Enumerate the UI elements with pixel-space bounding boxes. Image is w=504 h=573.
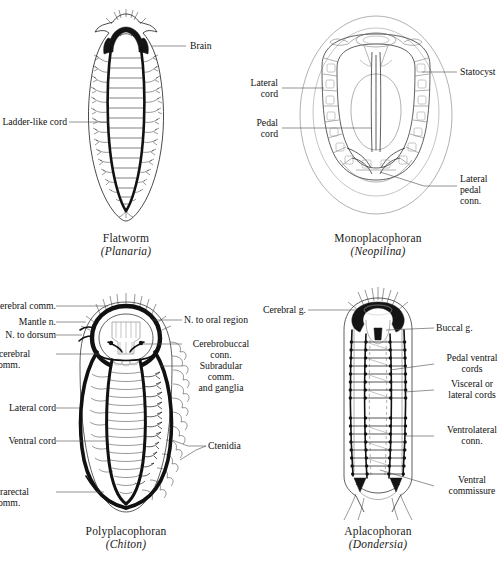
caption-monoplacophoran-genus: (Neopilina) — [350, 245, 405, 257]
caption-flatworm-common: Flatworm — [103, 232, 149, 244]
label-cerebrobuccal-conn: Cerebrobuccal conn. — [184, 338, 258, 360]
label-brain: Brain — [190, 40, 212, 51]
label-ventrolateral-conn: Ventrolateral conn. — [436, 424, 504, 446]
panel-monoplacophoran: Statocyst Lateral cord Pedal cord Latera… — [252, 0, 504, 280]
label-subcerebral-comm: Subcerebral comm. — [0, 348, 56, 370]
caption-flatworm-genus: (Planaria) — [101, 245, 152, 257]
label-suprarectal-comm: Suprarectal comm. — [0, 486, 56, 508]
caption-monoplacophoran-common: Monoplacophoran — [334, 232, 421, 244]
caption-polyplacophoran-genus: (Chiton) — [106, 538, 147, 550]
label-ladder-like-cord: Ladder-like cord — [0, 116, 67, 127]
label-mantle-n: Mantle n. — [0, 316, 56, 327]
flatworm-drawing — [0, 0, 252, 230]
label-visceral-or-lateral-cords: Visceral or lateral cords — [436, 378, 504, 400]
label-ctenidia: Ctenidia — [208, 440, 241, 451]
panel-flatworm: Brain Ladder-like cord Flatworm (Planari… — [0, 0, 252, 280]
leader-buccal-g — [386, 328, 434, 330]
label-n-to-dorsum: N. to dorsum — [0, 329, 56, 340]
label-buccal-g: Buccal g. — [436, 322, 473, 333]
label-ventral-cord: Ventral cord — [0, 435, 56, 446]
caption-aplacophoran: Aplacophoran (Dondersia) — [252, 525, 504, 551]
label-n-to-oral-region: N. to oral region — [184, 314, 248, 325]
label-statocyst: Statocyst — [460, 66, 496, 77]
caption-monoplacophoran: Monoplacophoran (Neopilina) — [252, 232, 504, 258]
label-cerebral-g: Cerebral g. — [224, 304, 306, 315]
panel-aplacophoran: Cerebral g. Buccal g. Pedal ventral cord… — [252, 280, 504, 573]
label-subradular-comm-and-ganglia: Subradular comm. and ganglia — [184, 360, 258, 393]
caption-polyplacophoran: Polyplacophoran (Chiton) — [0, 525, 252, 551]
label-cerebral-comm: Cerebral comm. — [0, 300, 56, 311]
caption-polyplacophoran-common: Polyplacophoran — [86, 525, 167, 537]
label-lateral-pedal-conn: Lateral pedal conn. — [460, 173, 504, 206]
leader-ctenidia-2 — [180, 446, 206, 460]
caption-aplacophoran-common: Aplacophoran — [344, 525, 412, 537]
caption-flatworm: Flatworm (Planaria) — [0, 232, 252, 258]
nervous-system-comparison-figure: Brain Ladder-like cord Flatworm (Planari… — [0, 0, 504, 573]
label-lateral-cord: Lateral cord — [212, 77, 278, 99]
leader-ctenidia-1 — [172, 440, 206, 446]
leader-visceral-or-lateral-cords — [404, 390, 434, 392]
caption-aplacophoran-genus: (Dondersia) — [349, 538, 407, 550]
label-ventral-commissure: Ventral commissure — [436, 474, 504, 496]
label-pedal-ventral-cords: Pedal ventral cords — [436, 352, 504, 374]
label-lateral-cord: Lateral cord — [0, 402, 56, 413]
leader-ventral-commissure — [380, 470, 434, 486]
panel-polyplacophoran: Cerebral comm. Mantle n. N. to dorsum Su… — [0, 280, 252, 573]
label-pedal-cord: Pedal cord — [212, 117, 278, 139]
